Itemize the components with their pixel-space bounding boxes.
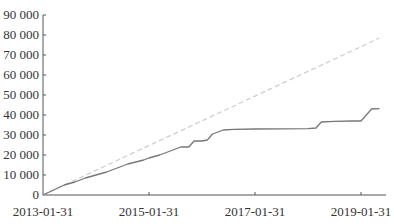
y-tick-label: 90 000 <box>3 7 39 22</box>
y-axis: 010 00020 00030 00040 00050 00060 00070 … <box>3 7 46 202</box>
y-tick-label: 70 000 <box>3 47 39 62</box>
line-chart: 010 00020 00030 00040 00050 00060 00070 … <box>0 0 394 224</box>
y-tick-label: 60 000 <box>3 67 39 82</box>
y-tick-label: 0 <box>33 187 40 202</box>
y-tick-label: 50 000 <box>3 87 39 102</box>
y-tick-label: 10 000 <box>3 167 39 182</box>
linear_reference-line <box>43 38 380 195</box>
y-tick-label: 20 000 <box>3 147 39 162</box>
x-tick-label: 2013-01-31 <box>13 204 74 219</box>
x-tick-label: 2019-01-31 <box>331 204 392 219</box>
y-tick-label: 80 000 <box>3 27 39 42</box>
x-axis: 2013-01-312015-01-312017-01-312019-01-31 <box>13 192 392 219</box>
x-tick-label: 2017-01-31 <box>225 204 286 219</box>
cumulative_actual-line <box>43 109 380 195</box>
y-tick-label: 30 000 <box>3 127 39 142</box>
y-tick-label: 40 000 <box>3 107 39 122</box>
series-group <box>43 38 380 195</box>
x-tick-label: 2015-01-31 <box>119 204 180 219</box>
